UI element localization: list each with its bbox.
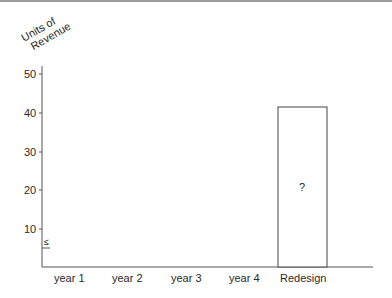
x-label-year1: year 1	[54, 272, 85, 284]
y-tick-50: 50	[24, 68, 36, 80]
y-tick-30: 30	[24, 146, 36, 158]
x-tick-labels: year 1 year 2 year 3 year 4 Redesign	[54, 272, 326, 284]
chart: Units of Revenue 50 40 30 20 10 ≤ ? year…	[0, 0, 392, 298]
year1-marker: ≤	[44, 237, 49, 247]
x-label-year2: year 2	[112, 272, 143, 284]
y-tick-20: 20	[24, 184, 36, 196]
redesign-question-mark: ?	[299, 181, 305, 193]
y-ticks: 50 40 30 20 10	[24, 68, 42, 235]
y-tick-10: 10	[24, 223, 36, 235]
y-tick-40: 40	[24, 107, 36, 119]
x-label-redesign: Redesign	[280, 272, 326, 284]
y-axis-label: Units of Revenue	[19, 9, 73, 54]
x-label-year3: year 3	[171, 272, 202, 284]
x-label-year4: year 4	[229, 272, 260, 284]
